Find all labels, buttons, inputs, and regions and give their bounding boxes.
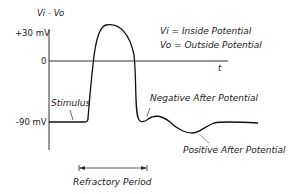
x-axis-label: t <box>218 63 221 73</box>
y-tick-minus90: -90 mV <box>16 117 47 127</box>
y-tick-plus30: +30 mV <box>15 28 50 38</box>
negative-after-arrow <box>147 108 150 116</box>
y-axis-label: Vi - Vo <box>37 8 64 18</box>
negative-after-label: Negative After Potential <box>150 93 258 103</box>
legend-outside: Vo = Outside Potential <box>160 40 262 50</box>
refractory-label: Refractory Period <box>73 177 151 187</box>
positive-after-arrow <box>199 134 209 143</box>
y-tick-zero: 0 <box>41 56 46 66</box>
stimulus-label: Stimulus <box>51 98 90 108</box>
refractory-period-span <box>79 165 147 171</box>
positive-after-label: Positive After Potential <box>183 145 286 155</box>
legend-inside: Vi = Inside Potential <box>160 26 251 36</box>
stimulus-arrow <box>70 110 73 120</box>
